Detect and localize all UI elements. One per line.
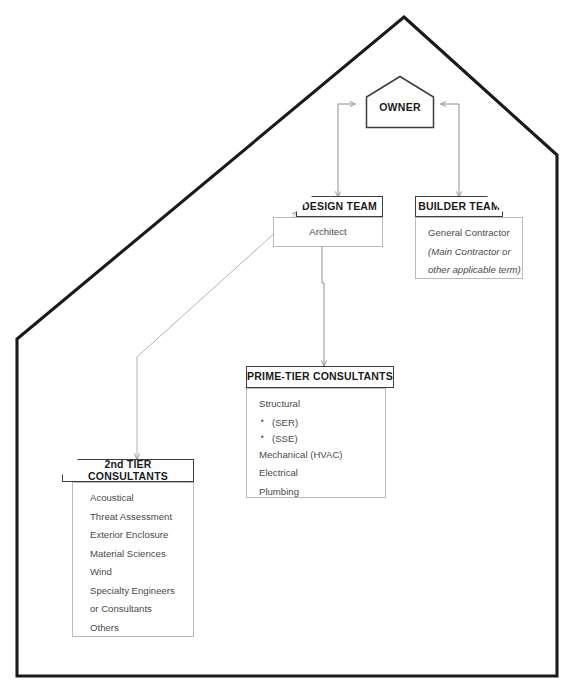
node-prime-tier-item: Electrical <box>259 467 385 478</box>
figure-caption <box>10 683 570 692</box>
node-owner-label: OWNER <box>365 101 435 113</box>
node-builder-team-header[interactable]: BUILDER TEAM <box>415 196 503 217</box>
node-owner[interactable]: OWNER <box>365 75 435 129</box>
node-second-tier-header[interactable]: 2nd TIER CONSULTANTS <box>62 459 194 482</box>
node-design-team-body: Architect <box>273 217 383 247</box>
node-prime-tier-body: Structural (SER) (SSE) Mechanical (HVAC)… <box>246 388 386 498</box>
node-second-tier-body: Acoustical Threat Assessment Exterior En… <box>72 482 194 637</box>
node-builder-team-item: General Contractor <box>428 227 522 238</box>
node-second-tier-item: or Consultants <box>90 603 193 614</box>
node-builder-team-body: General Contractor (Main Contractor or o… <box>415 217 523 279</box>
node-prime-tier-item: Plumbing <box>259 486 385 497</box>
node-prime-tier-item: (SSE) <box>259 433 385 444</box>
node-builder-team-item: other applicable term) <box>428 264 522 275</box>
node-prime-tier-header[interactable]: PRIME-TIER CONSULTANTS <box>246 366 394 388</box>
diagram-canvas: OWNER DESIGN TEAM Architect BUILDER TEAM… <box>0 0 575 692</box>
node-second-tier-item: Threat Assessment <box>90 511 193 522</box>
node-second-tier-item: Wind <box>90 566 193 577</box>
node-second-tier-item: Specialty Engineers <box>90 585 193 596</box>
node-second-tier-item: Material Sciences <box>90 548 193 559</box>
connector-design-team-prime-tier <box>322 233 382 366</box>
node-prime-tier-item: Mechanical (HVAC) <box>259 449 385 460</box>
node-second-tier-item: Exterior Enclosure <box>90 529 193 540</box>
node-prime-tier-item: Structural <box>259 398 385 409</box>
node-design-team-header[interactable]: DESIGN TEAM <box>296 196 383 217</box>
connector-owner-design-team <box>338 104 355 197</box>
node-design-team-item: Architect <box>309 226 346 237</box>
node-builder-team-item: (Main Contractor or <box>428 246 522 257</box>
node-prime-tier-item: (SER) <box>259 417 385 428</box>
connector-owner-builder-team <box>441 104 459 197</box>
node-second-tier-item: Others <box>90 622 193 633</box>
node-second-tier-item: Acoustical <box>90 492 193 503</box>
